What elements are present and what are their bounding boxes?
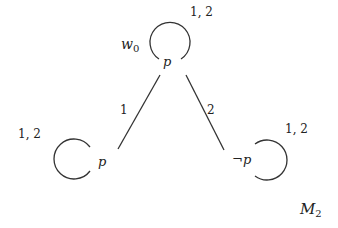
w0-loop-label: 1, 2 — [190, 5, 213, 19]
w0-valuation: p — [163, 54, 172, 69]
edge-w0-right — [186, 75, 224, 150]
w0-name: w0 — [121, 36, 139, 54]
right-loop-label: 1, 2 — [285, 122, 308, 136]
edge-label-1: 1 — [120, 103, 128, 117]
edge-label-2: 2 — [207, 103, 215, 117]
loop-right — [255, 140, 287, 180]
model-label: M2 — [299, 200, 322, 219]
right-valuation: ¬p — [232, 152, 252, 167]
kripke-model-diagram: p w0 1, 2 1 2 p 1, 2 ¬p 1, 2 M2 — [0, 0, 338, 228]
left-valuation: p — [98, 154, 107, 169]
left-loop-label: 1, 2 — [18, 127, 41, 141]
loop-left — [54, 139, 90, 179]
